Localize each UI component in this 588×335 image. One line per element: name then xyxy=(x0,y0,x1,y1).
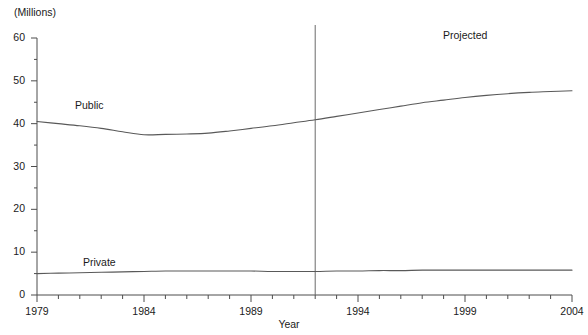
x-tick-label: 1984 xyxy=(124,305,164,317)
x-tick-label: 1989 xyxy=(231,305,271,317)
x-axis-title: Year xyxy=(0,318,578,330)
y-tick-label: 40 xyxy=(3,117,25,129)
x-tick-label: 1994 xyxy=(338,305,378,317)
y-tick-label: 60 xyxy=(3,31,25,43)
series-label-public: Public xyxy=(75,99,104,111)
x-tick-label: 1999 xyxy=(445,305,485,317)
y-tick-label: 50 xyxy=(3,74,25,86)
series-label-private: Private xyxy=(83,256,116,268)
y-tick-label: 10 xyxy=(3,245,25,257)
x-tick-label: 2004 xyxy=(552,305,588,317)
y-tick-label: 30 xyxy=(3,160,25,172)
x-tick-label: 1979 xyxy=(17,305,57,317)
y-tick-label: 20 xyxy=(3,202,25,214)
y-tick-label: 0 xyxy=(3,288,25,300)
annotation-projected: Projected xyxy=(443,29,487,41)
